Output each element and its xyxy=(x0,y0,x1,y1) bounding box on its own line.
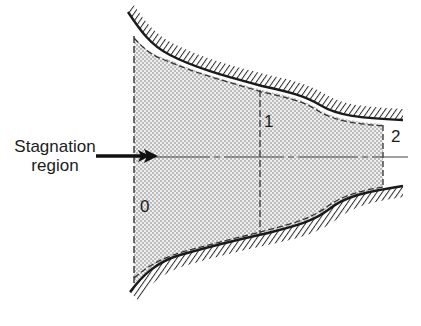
nozzle-diagram: Stagnation region 0 1 2 xyxy=(0,0,421,326)
stagnation-label-line1: Stagnation xyxy=(2,137,108,156)
station-2-label: 2 xyxy=(391,128,400,145)
stagnation-label-line2: region xyxy=(2,156,108,175)
station-0-label: 0 xyxy=(140,198,149,215)
station-1-label: 1 xyxy=(264,113,273,130)
stagnation-region-label: Stagnation region xyxy=(2,137,108,175)
